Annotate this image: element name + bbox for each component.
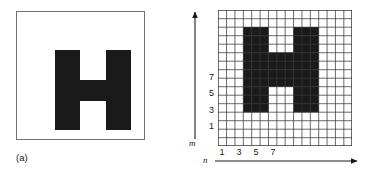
letter-h-shape <box>55 50 131 130</box>
grid-cell-on <box>310 70 319 79</box>
grid-cell-on <box>302 78 311 87</box>
grid-cell-on <box>310 27 319 36</box>
grid-cell-on <box>285 70 294 79</box>
grid-cell-on <box>293 44 302 53</box>
grid-cell-on <box>268 70 277 79</box>
grid-cell-on <box>260 53 269 62</box>
y-tick-5: 5 <box>202 88 214 98</box>
y-tick-3: 3 <box>202 105 214 115</box>
h-crossbar <box>80 80 106 101</box>
grid-cell-on <box>302 53 311 62</box>
m-axis-label: m <box>189 138 196 148</box>
grid-cell-on <box>252 78 261 87</box>
grid-cell-on <box>285 61 294 70</box>
grid-cell-on <box>293 61 302 70</box>
grid-cell-on <box>260 78 269 87</box>
x-tick-1: 1 <box>216 147 228 157</box>
grid-cell-on <box>302 104 311 113</box>
grid-cell-on <box>260 61 269 70</box>
grid-cell-on <box>302 44 311 53</box>
panel-a: (a) <box>0 0 183 188</box>
panel-b: m n 7 5 3 1 1 3 5 7 (b) <box>183 0 367 188</box>
grid-cell-on <box>252 44 261 53</box>
grid-cell-on <box>302 87 311 96</box>
grid-cell-on <box>252 104 261 113</box>
h-right-stroke <box>106 50 131 130</box>
grid-cell-on <box>243 78 252 87</box>
y-tick-7: 7 <box>202 72 214 82</box>
grid-cell-on <box>243 104 252 113</box>
grid-cell-on <box>252 70 261 79</box>
x-tick-7: 7 <box>267 147 279 157</box>
grid-cell-on <box>252 53 261 62</box>
grid-cell-on <box>293 78 302 87</box>
grid-cell-on <box>310 104 319 113</box>
grid-cell-on <box>293 36 302 45</box>
grid-cell-on <box>243 95 252 104</box>
grid-lines <box>218 10 352 146</box>
grid-cell-on <box>252 87 261 96</box>
caption-a: (a) <box>16 152 28 163</box>
grid-cell-on <box>243 53 252 62</box>
grid-cell-on <box>310 53 319 62</box>
grid-svg <box>218 10 352 146</box>
grid-cell-on <box>302 36 311 45</box>
grid-cell-on <box>293 87 302 96</box>
grid-cell-on <box>285 53 294 62</box>
grid-cell-on <box>310 78 319 87</box>
grid-cell-on <box>260 104 269 113</box>
h-left-stroke <box>55 50 80 130</box>
grid-cell-on <box>252 27 261 36</box>
grid-cell-on <box>285 78 294 87</box>
grid-cell-on <box>252 36 261 45</box>
pixel-grid <box>218 10 352 146</box>
grid-cell-on <box>302 61 311 70</box>
grid-cell-on <box>310 44 319 53</box>
image-frame <box>16 11 145 140</box>
figure-root: (a) m n 7 5 3 1 1 3 5 7 <box>0 0 367 188</box>
grid-cell-on <box>293 53 302 62</box>
grid-cell-on <box>277 53 286 62</box>
grid-cell-on <box>268 53 277 62</box>
grid-cell-on <box>252 61 261 70</box>
grid-cell-on <box>260 87 269 96</box>
grid-cell-on <box>277 61 286 70</box>
grid-cell-on <box>310 87 319 96</box>
grid-cell-on <box>243 36 252 45</box>
grid-cell-on <box>293 104 302 113</box>
grid-cell-on <box>310 36 319 45</box>
x-tick-3: 3 <box>233 147 245 157</box>
grid-cell-on <box>243 87 252 96</box>
grid-cell-on <box>260 44 269 53</box>
grid-cell-on <box>243 27 252 36</box>
y-tick-1: 1 <box>202 121 214 131</box>
grid-cell-on <box>260 36 269 45</box>
grid-cell-on <box>252 95 261 104</box>
n-axis-label: n <box>203 155 208 165</box>
grid-cell-on <box>277 78 286 87</box>
grid-cell-on <box>260 27 269 36</box>
grid-cell-on <box>243 44 252 53</box>
grid-cell-on <box>268 78 277 87</box>
grid-cell-on <box>260 95 269 104</box>
grid-cell-on <box>243 70 252 79</box>
grid-cell-on <box>268 61 277 70</box>
grid-cell-on <box>260 70 269 79</box>
grid-cell-on <box>293 70 302 79</box>
grid-cell-on <box>310 95 319 104</box>
grid-cell-on <box>293 95 302 104</box>
grid-cell-on <box>302 70 311 79</box>
grid-cell-on <box>277 70 286 79</box>
grid-cell-on <box>302 95 311 104</box>
grid-cell-on <box>302 27 311 36</box>
grid-cell-on <box>293 27 302 36</box>
grid-cell-on <box>243 61 252 70</box>
grid-cell-on <box>310 61 319 70</box>
x-tick-5: 5 <box>250 147 262 157</box>
